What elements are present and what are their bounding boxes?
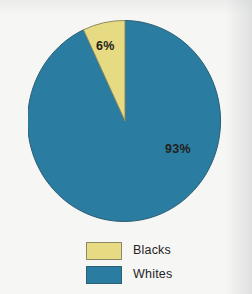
pie-label-whites: 93% (165, 142, 191, 156)
legend-swatch-whites (86, 266, 122, 284)
legend-label-whites: Whites (133, 268, 172, 281)
legend-item-blacks[interactable]: Blacks (86, 241, 172, 260)
pie-chart: 6% 93% (28, 20, 222, 222)
chart-page: 6% 93% Blacks Whites (0, 0, 252, 294)
pie-chart-svg (28, 20, 222, 222)
legend-item-whites[interactable]: Whites (86, 265, 172, 284)
legend-label-blacks: Blacks (133, 244, 171, 257)
legend-swatch-blacks (86, 242, 122, 260)
pie-label-blacks: 6% (96, 39, 115, 53)
chart-legend: Blacks Whites (86, 241, 172, 284)
